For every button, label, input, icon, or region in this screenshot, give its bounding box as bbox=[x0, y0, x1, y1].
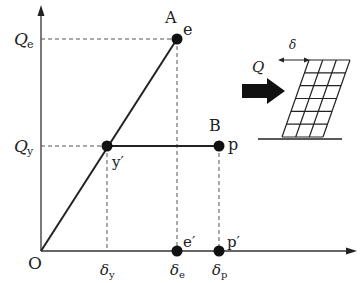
qe-main: Q bbox=[14, 29, 28, 49]
x-axis-arrow-icon bbox=[346, 248, 357, 255]
qy-main: Q bbox=[14, 136, 28, 156]
label-b: B bbox=[209, 116, 221, 135]
frame-grid bbox=[282, 60, 350, 137]
label-y-prime: y′ bbox=[111, 153, 124, 171]
inset-displacement-label: δ bbox=[289, 38, 296, 52]
inset-force-label: Q bbox=[252, 58, 264, 76]
point-b bbox=[214, 141, 225, 152]
axes bbox=[38, 5, 358, 255]
curves bbox=[41, 39, 219, 251]
label-p-prime: p′ bbox=[227, 233, 241, 251]
point-e-prime bbox=[172, 246, 183, 257]
label-b-p: p bbox=[228, 135, 238, 154]
qy-sub: y bbox=[26, 145, 34, 158]
de-main: δ bbox=[170, 261, 179, 279]
dy-main: δ bbox=[100, 261, 109, 279]
label-e-prime: e′ bbox=[183, 233, 196, 251]
displacement-arrow-icon bbox=[278, 58, 310, 63]
label-a: A bbox=[164, 8, 177, 27]
point-y-prime bbox=[102, 141, 113, 152]
dp-sub: p bbox=[221, 269, 227, 280]
dp-main: δ bbox=[212, 261, 221, 279]
force-arrow-icon bbox=[242, 78, 285, 104]
dy-sub: y bbox=[108, 269, 115, 280]
diagram-canvas: O Q e Q y δ y δ e δ p A e B p y′ e′ p′ Q… bbox=[0, 0, 362, 283]
label-a-e: e bbox=[183, 20, 192, 39]
y-axis-arrow-icon bbox=[38, 5, 45, 16]
qe-sub: e bbox=[27, 38, 34, 51]
structure-inset: Q δ bbox=[242, 38, 350, 139]
de-sub: e bbox=[179, 269, 185, 280]
point-p-prime bbox=[214, 246, 225, 257]
origin-label: O bbox=[28, 253, 42, 273]
point-a bbox=[172, 34, 183, 45]
